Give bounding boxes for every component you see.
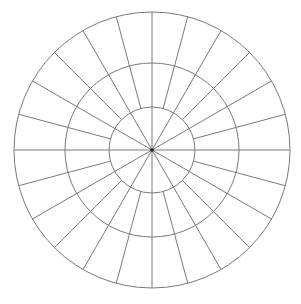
center-group (150, 148, 154, 152)
primary-spoke (83, 30, 152, 150)
secondary-spoke (182, 52, 249, 119)
secondary-spoke (182, 180, 249, 247)
primary-spoke (152, 150, 221, 270)
secondary-spoke (54, 52, 121, 119)
primary-spoke (152, 30, 221, 150)
primary-spoke (83, 150, 152, 270)
polar-grid-diagram (0, 0, 301, 304)
primary-spoke (152, 81, 272, 150)
primary-spoke (152, 150, 272, 219)
center-point (150, 148, 154, 152)
secondary-spoke (54, 180, 121, 247)
primary-spoke (32, 81, 152, 150)
primary-spoke (32, 150, 152, 219)
